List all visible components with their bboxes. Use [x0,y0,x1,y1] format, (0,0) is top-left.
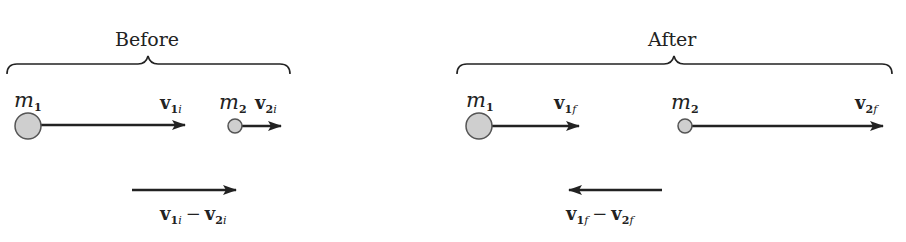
before-relative-label: v1i−v2i [160,203,226,227]
after-relative-label: v1f−v2f [566,203,634,227]
after-title: After [648,28,696,50]
after-m1-ball [466,113,492,139]
after-m2-ball [678,119,692,133]
before-v2-label: v2i [255,92,277,116]
after-m1-label: m1 [466,88,494,114]
after-m2-label: m2 [671,90,699,116]
before-m1-ball [15,113,41,139]
after-v1-label: v1f [554,92,576,116]
before-brace [7,56,290,74]
before-v1-label: v1i [160,92,182,116]
before-m2-ball [228,119,242,133]
after-brace [457,56,892,74]
before-title: Before [115,28,179,50]
after-v2-label: v2f [855,92,877,116]
before-m2-label: m2 [219,90,247,116]
before-m1-label: m1 [14,88,42,114]
